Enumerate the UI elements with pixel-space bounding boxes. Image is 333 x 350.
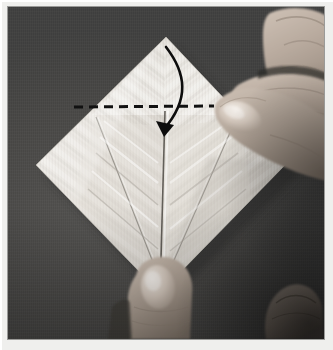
photo-vignette	[8, 7, 324, 339]
origami-photograph	[8, 7, 324, 339]
screenshot-root: Two hands folding a square sheet of whit…	[0, 0, 333, 350]
